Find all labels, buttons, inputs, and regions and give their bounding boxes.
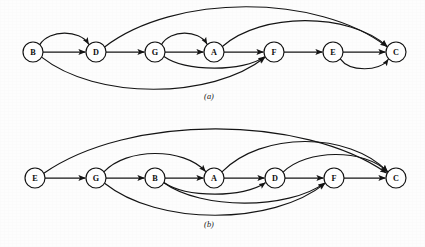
graph-node-g[interactable]: G [86,168,106,188]
node-label: E [330,48,336,57]
graph-node-a[interactable]: A [204,42,224,62]
edge-E-to-C [44,129,387,173]
edge-D-to-C [105,7,387,47]
graph-node-b[interactable]: B [23,42,43,62]
panels-layer: BDGAFEC(a)EGBADFC(b) [23,7,406,229]
node-label: A [211,48,217,57]
node-label: A [211,174,217,183]
edge-G-to-A [162,33,207,44]
panel-caption-a: (a) [204,92,214,101]
node-label: G [152,48,159,57]
node-label: G [93,174,100,183]
edge-A-to-C [222,142,388,172]
node-label: E [32,174,38,183]
figure-root: BDGAFEC(a)EGBADFC(b) [0,0,425,247]
graph-panel-a: BDGAFEC(a) [23,7,406,101]
graph-node-g[interactable]: G [145,42,165,62]
graph-node-e[interactable]: E [323,42,343,62]
panel-caption-b: (b) [204,220,214,229]
node-label: C [393,174,399,183]
graph-panel-b: EGBADFC(b) [25,129,406,229]
node-label: D [93,48,99,57]
graph-figure-svg: BDGAFEC(a)EGBADFC(b) [0,0,425,247]
graph-node-e[interactable]: E [25,168,45,188]
node-label: F [271,48,276,57]
graph-node-b[interactable]: B [145,168,165,188]
graph-node-c[interactable]: C [386,168,406,188]
node-label: F [331,174,336,183]
graph-node-f[interactable]: F [264,42,284,62]
node-label: B [30,48,36,57]
edge-B-to-D [40,33,89,45]
graph-node-f[interactable]: F [324,168,344,188]
graph-node-d[interactable]: D [265,168,285,188]
node-label: D [272,174,278,183]
edge-B-to-F [164,183,325,203]
edge-A-to-C [222,21,387,47]
edge-E-to-C [340,59,388,69]
node-label: C [393,48,399,57]
graph-node-c[interactable]: C [386,42,406,62]
graph-node-a[interactable]: A [204,168,224,188]
node-label: B [152,174,158,183]
graph-node-d[interactable]: D [86,42,106,62]
